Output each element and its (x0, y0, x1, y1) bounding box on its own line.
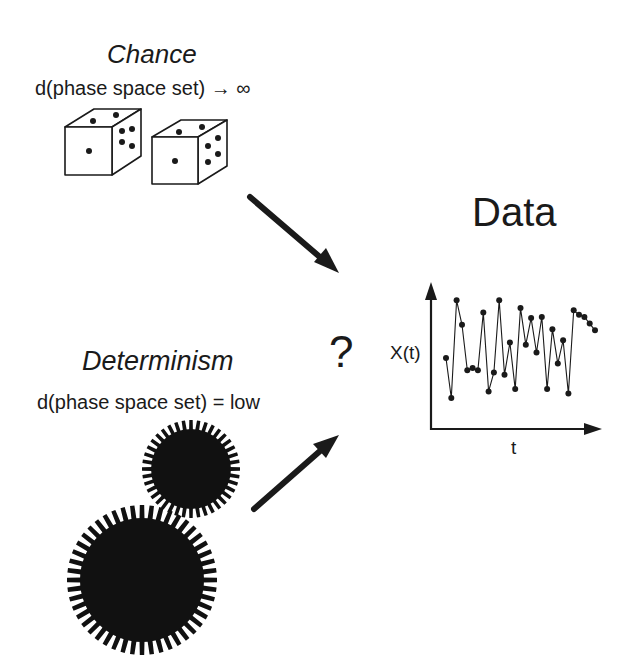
data-point (571, 307, 577, 313)
data-point (502, 372, 508, 378)
data-point (528, 315, 534, 321)
diagram-canvas (0, 0, 629, 670)
data-point (565, 391, 571, 397)
data-point (464, 367, 470, 373)
data-point (470, 365, 476, 371)
data-point (555, 361, 561, 367)
gear-icon (142, 420, 240, 518)
dice-icon (152, 120, 227, 184)
data-point (480, 310, 486, 316)
data-point (560, 337, 566, 343)
data-point (443, 355, 449, 361)
data-point (507, 340, 513, 346)
data-point (549, 326, 555, 332)
dice-icon (65, 109, 141, 175)
time-series-line (443, 297, 598, 401)
arrow-icon (250, 197, 339, 273)
data-point (581, 314, 587, 320)
chart-axes (425, 282, 602, 435)
gear-icon (67, 505, 217, 655)
data-point (496, 297, 502, 303)
data-point (587, 321, 593, 327)
arrow-icon (254, 435, 339, 509)
data-point (491, 370, 497, 376)
data-point (576, 312, 582, 318)
data-point (475, 367, 481, 373)
data-point (454, 297, 460, 303)
data-point (518, 305, 524, 311)
data-point (534, 350, 540, 356)
data-point (592, 327, 598, 333)
data-point (544, 386, 550, 392)
data-point (512, 386, 518, 392)
data-point (486, 388, 492, 394)
data-point (539, 314, 545, 320)
data-point (459, 322, 465, 328)
data-point (448, 395, 454, 401)
data-point (523, 342, 529, 348)
